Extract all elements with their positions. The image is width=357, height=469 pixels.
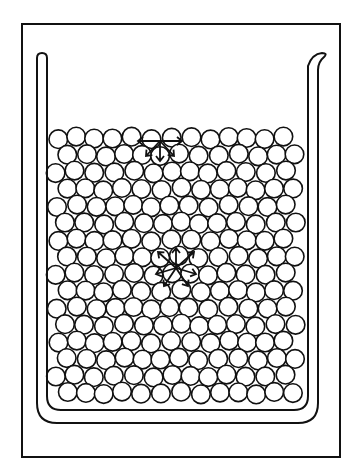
molecule-circle bbox=[103, 129, 122, 148]
molecule-circle bbox=[239, 299, 258, 318]
molecule-circle bbox=[172, 382, 191, 401]
molecule-circle bbox=[87, 300, 106, 319]
molecule-circle bbox=[208, 316, 227, 335]
molecule-circle bbox=[229, 179, 248, 198]
molecule-circle bbox=[115, 247, 134, 266]
molecule-circle bbox=[94, 385, 113, 404]
molecule-circle bbox=[219, 196, 238, 215]
molecule-circle bbox=[78, 145, 97, 164]
molecule-circle bbox=[274, 127, 293, 146]
molecule-circle bbox=[220, 230, 239, 249]
molecule-circle bbox=[78, 247, 97, 266]
molecule-circle bbox=[67, 229, 86, 248]
molecule-circle bbox=[274, 229, 293, 248]
molecule-circle bbox=[247, 385, 266, 404]
molecule-circle bbox=[276, 263, 295, 282]
molecule-circle bbox=[115, 145, 134, 164]
molecule-circle bbox=[217, 162, 236, 181]
molecule-circle bbox=[58, 281, 77, 300]
molecule-circle bbox=[124, 298, 143, 317]
molecule-circle bbox=[122, 230, 141, 249]
molecule-circle bbox=[68, 331, 87, 350]
molecule-circle bbox=[229, 247, 248, 266]
molecule-circle bbox=[284, 384, 303, 403]
molecule-circle bbox=[255, 232, 274, 251]
molecule-circle bbox=[125, 264, 144, 283]
molecule-circle bbox=[199, 266, 218, 285]
molecule-circle bbox=[59, 383, 78, 402]
molecule-circle bbox=[229, 349, 248, 368]
molecule-circle bbox=[113, 280, 132, 299]
molecule-circle bbox=[182, 128, 201, 147]
molecule-circle bbox=[67, 127, 86, 146]
molecule-circle bbox=[135, 214, 154, 233]
molecule-circle bbox=[57, 349, 76, 368]
molecule-circle bbox=[276, 365, 295, 384]
molecule-circle bbox=[170, 348, 189, 367]
molecule-circle bbox=[211, 383, 230, 402]
molecule-circle bbox=[229, 383, 248, 402]
molecule-circle bbox=[103, 333, 122, 352]
molecule-circle bbox=[255, 130, 274, 149]
molecule-circle bbox=[68, 195, 87, 214]
molecule-circle bbox=[46, 266, 65, 285]
molecule-circle bbox=[274, 331, 293, 350]
molecule-circle bbox=[65, 161, 84, 180]
molecule-circle bbox=[287, 213, 306, 232]
molecule-circle bbox=[87, 198, 106, 217]
molecule-circle bbox=[160, 298, 179, 317]
molecule-circle bbox=[208, 214, 227, 233]
molecule-circle bbox=[113, 179, 132, 198]
molecule-circle bbox=[103, 231, 122, 250]
molecule-circle bbox=[277, 161, 296, 180]
molecule-circle bbox=[47, 367, 66, 386]
molecule-circle bbox=[122, 127, 141, 146]
molecule-circle bbox=[68, 297, 87, 316]
molecule-circle bbox=[115, 348, 134, 367]
molecule-circle bbox=[125, 366, 144, 385]
molecule-circle bbox=[227, 213, 246, 232]
molecule-circle bbox=[124, 196, 143, 215]
molecule-circle bbox=[172, 178, 191, 197]
molecule-circle bbox=[230, 144, 249, 163]
molecule-circle bbox=[135, 316, 154, 335]
molecule-circle bbox=[56, 315, 75, 334]
molecule-circle bbox=[192, 385, 211, 404]
molecule-circle bbox=[172, 314, 191, 333]
molecule-circle bbox=[144, 164, 163, 183]
molecule-circle bbox=[160, 196, 179, 215]
molecule-circle bbox=[125, 161, 144, 180]
molecule-circle bbox=[266, 315, 285, 334]
molecule-circle bbox=[94, 283, 113, 302]
molecule-circle bbox=[65, 263, 84, 282]
molecule-circle bbox=[249, 147, 268, 166]
molecule-circle bbox=[277, 297, 296, 316]
molecule-circle bbox=[219, 128, 238, 147]
molecule-circle bbox=[113, 382, 132, 401]
molecule-circle bbox=[182, 230, 201, 249]
molecule-circle bbox=[162, 332, 181, 351]
molecule-circle bbox=[152, 384, 171, 403]
molecule-circle bbox=[56, 213, 75, 232]
beaker-diagram bbox=[0, 0, 357, 469]
molecule-circle bbox=[132, 384, 151, 403]
molecule-circle bbox=[170, 246, 189, 265]
molecule-circle bbox=[286, 316, 305, 335]
molecule-circle bbox=[265, 179, 284, 198]
molecule-circle bbox=[217, 365, 236, 384]
molecule-circle bbox=[276, 195, 295, 214]
molecule-circle bbox=[229, 281, 248, 300]
molecule-circle bbox=[182, 333, 201, 352]
molecule-circle bbox=[77, 384, 96, 403]
molecule-circle bbox=[115, 314, 134, 333]
molecule-circle bbox=[219, 297, 238, 316]
molecule-circle bbox=[239, 197, 258, 216]
molecule-circle bbox=[151, 350, 170, 369]
molecule-circle bbox=[220, 331, 239, 350]
molecule-circle bbox=[192, 283, 211, 302]
molecule-circle bbox=[77, 350, 96, 369]
molecule-circle bbox=[265, 383, 284, 402]
molecule-circle bbox=[199, 368, 218, 387]
molecule-circle bbox=[46, 164, 65, 183]
molecule-circle bbox=[268, 349, 287, 368]
